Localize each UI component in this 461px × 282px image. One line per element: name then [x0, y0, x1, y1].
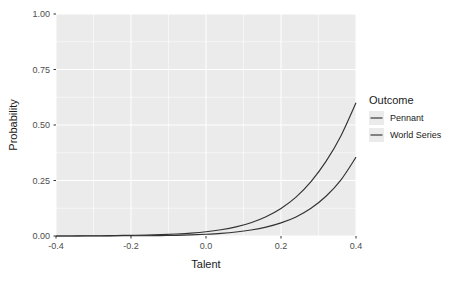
y-tick-label: 0.50	[32, 120, 50, 130]
y-tick-label: 0.25	[32, 176, 50, 186]
legend-title: Outcome	[369, 94, 414, 106]
x-tick-label: 0.2	[275, 241, 288, 251]
y-tick-label: 0.00	[32, 231, 50, 241]
y-axis-title: Probability	[7, 99, 19, 151]
probability-vs-talent-chart: 0.000.250.500.751.00 Probability -0.4-0.…	[0, 0, 461, 282]
x-tick-label: -0.2	[123, 241, 139, 251]
y-tick-label: 0.75	[32, 65, 50, 75]
x-tick-label: -0.4	[48, 241, 64, 251]
legend-item-label: Pennant	[390, 113, 424, 123]
y-tick-label: 1.00	[32, 9, 50, 19]
legend-item[interactable]: World Series	[369, 128, 442, 142]
plot-panel	[56, 14, 356, 236]
legend-item-label: World Series	[390, 130, 442, 140]
x-tick-label: 0.0	[200, 241, 213, 251]
x-axis-title: Talent	[191, 258, 220, 270]
legend-item[interactable]: Pennant	[369, 111, 424, 125]
x-tick-label: 0.4	[350, 241, 363, 251]
